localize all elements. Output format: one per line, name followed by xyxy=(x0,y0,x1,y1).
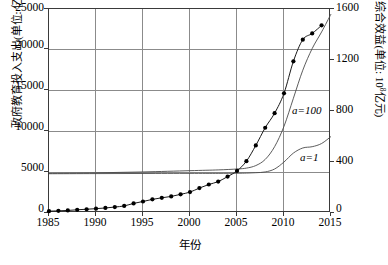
series-line-a1 xyxy=(49,137,331,174)
series-line-a100 xyxy=(49,14,331,173)
series-marker xyxy=(282,91,286,95)
series-marker xyxy=(75,208,79,212)
y-axis-right-title-suffix: 亿元) xyxy=(374,92,386,118)
series-marker xyxy=(207,182,211,186)
series-marker xyxy=(226,174,230,178)
y-right-tick-label: 400 xyxy=(336,155,353,167)
y-right-tick-label: 1200 xyxy=(336,53,359,65)
series-marker xyxy=(216,179,220,183)
x-tick-label: 2015 xyxy=(319,216,342,228)
series-line-spending xyxy=(49,25,322,211)
y-right-tick-label: 800 xyxy=(336,104,353,116)
series-marker xyxy=(103,206,107,210)
annotation-a1: a=1 xyxy=(300,152,318,163)
y-left-tick-label: 15000 xyxy=(15,80,44,92)
series-marker xyxy=(94,207,98,211)
series-marker xyxy=(150,197,154,201)
series-marker xyxy=(235,169,239,173)
series-marker xyxy=(320,23,324,27)
series-marker xyxy=(197,186,201,190)
annotation-a1-text: a=1 xyxy=(300,151,318,163)
annotation-a100: a=100 xyxy=(292,105,321,116)
y-right-tick-label: 0 xyxy=(336,203,342,215)
y-axis-right-title-prefix: 综合效益(单位: 10 xyxy=(374,1,386,87)
x-tick-label: 1985 xyxy=(37,216,60,228)
x-tick-label: 2005 xyxy=(225,216,248,228)
series-marker xyxy=(179,192,183,196)
series-marker xyxy=(122,204,126,208)
series-marker xyxy=(66,208,70,212)
plot-area xyxy=(48,8,330,212)
series-marker xyxy=(254,143,258,147)
series-marker xyxy=(188,190,192,194)
series-marker xyxy=(273,111,277,115)
series-marker xyxy=(169,194,173,198)
x-tick-label: 2010 xyxy=(272,216,295,228)
y-left-tick-label: 10000 xyxy=(15,121,44,133)
series-marker xyxy=(263,126,267,130)
y-left-tick-label: 20000 xyxy=(15,39,44,51)
y-left-tick-label: 25000 xyxy=(15,2,44,14)
annotation-a100-text: a=100 xyxy=(292,104,321,116)
x-tick-label: 2000 xyxy=(178,216,201,228)
y-right-tick-label: 1600 xyxy=(336,2,359,14)
series-marker xyxy=(47,209,51,213)
x-axis-title: 年份 xyxy=(0,236,379,252)
series-marker xyxy=(132,201,136,205)
series-marker xyxy=(113,205,117,209)
series-markers-spending xyxy=(47,23,324,213)
series-marker xyxy=(160,196,164,200)
series-marker xyxy=(310,31,314,35)
series-marker xyxy=(85,207,89,211)
series-marker xyxy=(244,159,248,163)
x-tick-label: 1995 xyxy=(131,216,154,228)
x-tick-label: 1990 xyxy=(84,216,107,228)
y-axis-right-title: 综合效益(单位: 108亿元) xyxy=(374,0,388,144)
series-canvas xyxy=(49,9,331,213)
series-marker xyxy=(56,209,60,213)
series-marker xyxy=(291,59,295,63)
series-marker xyxy=(141,199,145,203)
y-left-tick-label: 5000 xyxy=(21,162,44,174)
series-marker xyxy=(301,38,305,42)
